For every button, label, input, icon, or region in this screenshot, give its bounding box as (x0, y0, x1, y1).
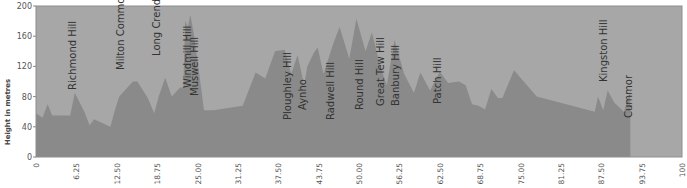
x-tick-label: 12.50 (113, 163, 122, 185)
x-tick-label: 43.75 (315, 163, 324, 185)
peak-label: Banbury Hill (390, 45, 401, 106)
x-tick-label: 87.50 (597, 163, 606, 185)
x-tick-label: 50.00 (355, 163, 364, 185)
peak-label: Ploughley Hill (282, 52, 293, 120)
peak-label: Patch Hill (432, 58, 443, 105)
x-tick-label: 93.75 (638, 163, 647, 185)
x-tick-label: 68.75 (476, 163, 485, 185)
x-tick-label: 6.25 (72, 163, 81, 180)
peak-label: Great Tew Hill (375, 37, 386, 106)
x-tick-label: 31.25 (234, 163, 243, 185)
x-tick-label: 0 (32, 163, 41, 168)
peak-label: Richmond Hill (67, 21, 78, 90)
y-tick-label: 200 (17, 2, 32, 11)
x-tick-label: 18.75 (153, 163, 162, 185)
peak-label: Aynho (297, 79, 308, 110)
y-axis-label: Height in metres (2, 82, 14, 142)
x-tick-label: 56.25 (395, 163, 404, 185)
y-tick-label: 120 (17, 62, 32, 71)
x-tick-label: 37.50 (274, 163, 283, 185)
x-axis: 06.2512.5018.7525.0031.2537.5043.7550.00… (32, 163, 687, 185)
peak-label: Kingston Hill (598, 19, 609, 82)
y-axis: 04080120160200 (17, 2, 36, 162)
y-tick-label: 80 (22, 93, 32, 102)
peak-label: Milton Common (115, 0, 126, 70)
x-tick-label: 81.25 (557, 163, 566, 185)
x-tick-label: 100 (678, 163, 687, 178)
elevation-profile-chart: 04080120160200 06.2512.5018.7525.0031.25… (0, 0, 687, 188)
y-tick-label: 40 (22, 123, 32, 132)
peak-label: Cummor (623, 74, 634, 118)
y-tick-label: 0 (27, 153, 32, 162)
y-tick-label: 160 (17, 32, 32, 41)
peak-label: Round Hill (354, 59, 365, 110)
peak-label: Muswell Hill (189, 37, 200, 96)
peak-label: Radwell Hill (325, 62, 336, 120)
x-tick-label: 25.00 (194, 163, 203, 185)
peak-label: Long Crendon (151, 0, 162, 56)
x-tick-label: 75.00 (517, 163, 526, 185)
y-axis-label-text: Height in metres (4, 79, 12, 145)
x-tick-label: 62.50 (436, 163, 445, 185)
